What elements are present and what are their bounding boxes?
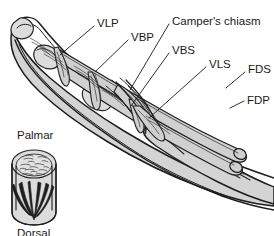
anatomy-figure: VLP VBP VBS VLS Camper's chiasm FDS FDP …: [0, 0, 274, 236]
label-vlp: VLP: [97, 17, 119, 29]
label-vbs: VBS: [172, 44, 195, 56]
label-vbp: VBP: [131, 31, 154, 43]
leader-fdp: [230, 101, 244, 108]
anatomy-illustration: VLP VBP VBS VLS Camper's chiasm FDS FDP …: [0, 0, 274, 236]
leader-vlp: [60, 26, 94, 55]
label-vls: VLS: [209, 58, 231, 70]
leader-vls: [149, 67, 206, 118]
label-fds: FDS: [248, 63, 271, 75]
inset-label-palmar: Palmar: [17, 129, 54, 141]
label-campers-chiasm: Camper's chiasm: [172, 15, 260, 27]
leader-fds: [226, 72, 245, 88]
inset-label-dorsal: Dorsal: [17, 227, 50, 236]
cross-section-inset: Palmar: [12, 129, 56, 236]
label-fdp: FDP: [247, 94, 270, 106]
leader-vbp: [95, 40, 128, 72]
